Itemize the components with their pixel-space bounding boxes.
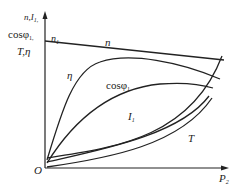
curve-I1	[47, 56, 222, 158]
x-axis-arrow-icon	[221, 166, 229, 171]
curve-n	[45, 41, 224, 60]
y-label-line1: n,I1,	[24, 12, 38, 26]
y-axis-arrow-icon	[43, 11, 48, 19]
x-axis-label: P2	[219, 173, 229, 188]
curve-T-upper	[47, 96, 209, 162]
n1-label: n1	[51, 33, 59, 48]
cosphi-label: cosφ1	[106, 80, 130, 95]
I1-label: I1	[128, 111, 135, 126]
curve-eta	[47, 58, 220, 160]
eta-label: η	[67, 70, 72, 81]
T-label: T	[188, 133, 194, 144]
y-label-line3: T,η	[17, 46, 31, 57]
origin-label: O	[34, 165, 42, 176]
y-label-line2: cosφ1,	[8, 29, 34, 44]
n-label: n	[105, 37, 111, 48]
characteristics-diagram: n,I1, cosφ1, T,η n1 n η cosφ1 I1 T O P2	[0, 0, 243, 195]
